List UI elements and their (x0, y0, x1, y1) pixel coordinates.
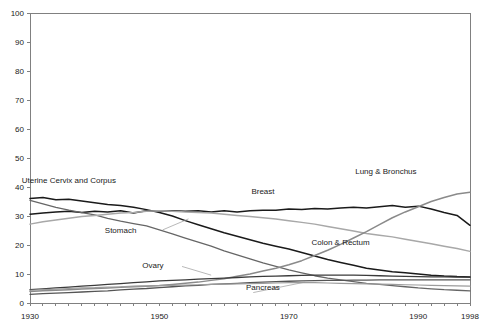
y-tick-label: 0 (20, 299, 25, 308)
series-label-breast: Breast (251, 187, 275, 196)
x-tick-label: 1990 (409, 312, 427, 321)
series-line-uterine-cervix-and-corpus (30, 197, 470, 276)
series-label-stomach: Stomach (105, 226, 137, 235)
x-tick-label: 1930 (21, 312, 39, 321)
y-tick-label: 70 (15, 96, 24, 105)
series-label-uterine-cervix-and-corpus: Uterine Cervix and Corpus (22, 176, 116, 185)
axes (27, 13, 470, 306)
series-label-pancreas: Pancreas (246, 283, 280, 292)
x-tick-label: 1950 (151, 312, 169, 321)
y-axis-tick-labels: 0102030405060708090100 (11, 9, 25, 308)
y-tick-label: 20 (15, 241, 24, 250)
y-tick-label: 60 (15, 125, 24, 134)
series-label-ovary: Ovary (142, 261, 163, 270)
series-line-colon-rectum (30, 211, 470, 252)
y-tick-label: 90 (15, 38, 24, 47)
y-tick-label: 100 (11, 9, 25, 18)
label-leader-line (182, 266, 211, 275)
label-leader-line (163, 219, 189, 230)
x-tick-label: 1970 (280, 312, 298, 321)
y-tick-label: 50 (15, 154, 24, 163)
y-tick-label: 10 (15, 270, 24, 279)
chart-container: 0102030405060708090100 19301950197019901… (0, 0, 488, 329)
cancer-death-rate-line-chart: 0102030405060708090100 19301950197019901… (0, 0, 488, 329)
y-tick-label: 30 (15, 212, 24, 221)
x-axis-tick-labels: 19301950197019901998 (21, 312, 479, 321)
series-label-colon-rectum: Colon & Rectum (311, 238, 370, 247)
y-tick-label: 80 (15, 67, 24, 76)
series-lines (30, 192, 470, 294)
x-tick-label: 1998 (461, 312, 479, 321)
series-label-lung-bronchus: Lung & Bronchus (355, 167, 416, 176)
series-labels: Uterine Cervix and CorpusBreastStomachCo… (22, 167, 417, 292)
